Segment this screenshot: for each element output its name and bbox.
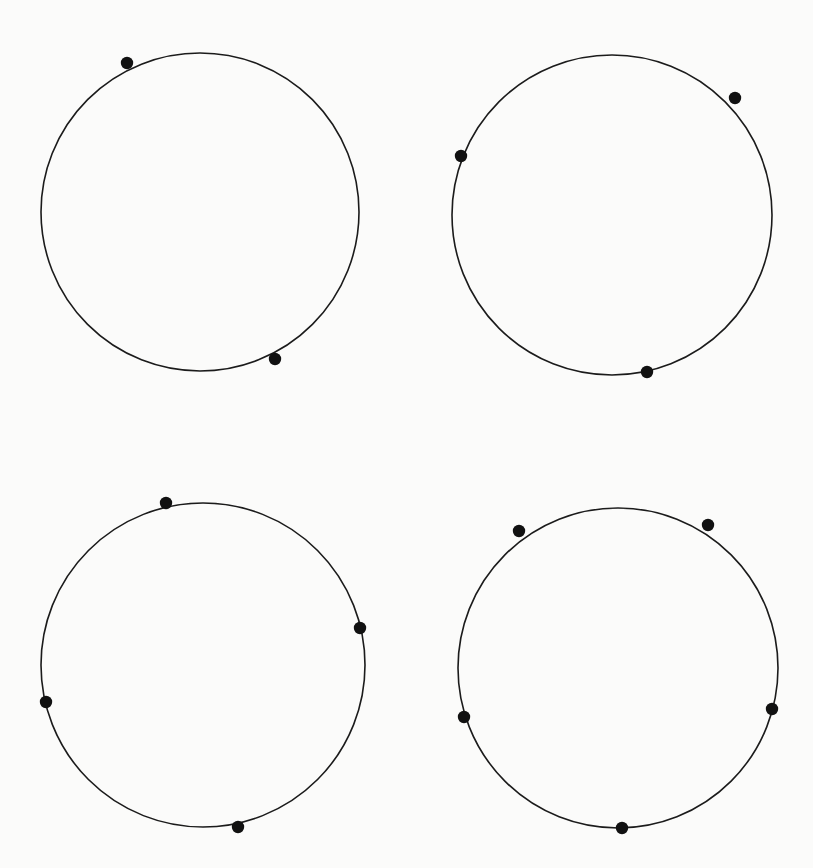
point-marker[interactable] — [269, 353, 281, 365]
point-marker[interactable] — [455, 150, 467, 162]
panel-hit-area[interactable] — [41, 53, 359, 371]
panel-hit-area[interactable] — [452, 55, 772, 375]
circle-panel[interactable] — [452, 55, 772, 378]
point-marker[interactable] — [729, 92, 741, 104]
panel-hit-area[interactable] — [41, 503, 365, 827]
point-marker[interactable] — [702, 519, 714, 531]
point-marker[interactable] — [232, 821, 244, 833]
point-marker[interactable] — [121, 57, 133, 69]
circle-panel[interactable] — [41, 53, 359, 371]
point-marker[interactable] — [641, 366, 653, 378]
point-marker[interactable] — [766, 703, 778, 715]
point-marker[interactable] — [354, 622, 366, 634]
point-marker[interactable] — [458, 711, 470, 723]
panel-hit-area[interactable] — [458, 508, 778, 828]
circles-figure — [0, 0, 813, 868]
point-marker[interactable] — [160, 497, 172, 509]
point-marker[interactable] — [616, 822, 628, 834]
point-marker[interactable] — [40, 696, 52, 708]
figure-root — [0, 0, 813, 868]
point-marker[interactable] — [513, 525, 525, 537]
